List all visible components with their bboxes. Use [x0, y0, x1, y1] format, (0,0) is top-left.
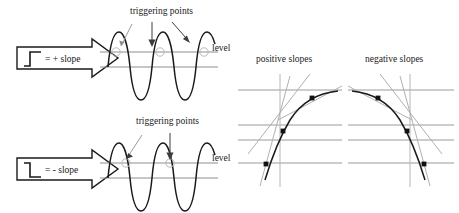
plus-slope-label: = + slope	[45, 54, 81, 64]
callout-leader-3	[172, 22, 186, 38]
marked-point	[405, 129, 410, 134]
curve-path	[352, 91, 425, 180]
tangent-line-1	[260, 76, 290, 186]
minus-slope-label: = - slope	[45, 165, 78, 175]
positive-slopes-svg	[238, 68, 348, 193]
plus-slope-waveform-panel	[96, 4, 236, 104]
figure-canvas: = + slope triggering points level	[0, 0, 459, 213]
callout-leader-1	[129, 135, 142, 155]
tangent-line-3	[400, 76, 430, 186]
negative-slopes-svg	[348, 68, 458, 193]
level-label-top: level	[212, 44, 230, 54]
negative-slopes-panel	[348, 68, 458, 193]
positive-slopes-title: positive slopes	[256, 55, 312, 65]
sine-waveform	[108, 143, 215, 211]
callout-arrowhead-2	[166, 153, 173, 160]
marked-point	[281, 129, 286, 134]
triggering-points-label-bottom: triggering points	[136, 117, 199, 127]
marked-point	[310, 96, 315, 101]
minus-slope-waveform-panel	[96, 115, 236, 213]
marked-point	[422, 162, 427, 167]
marked-point	[376, 96, 381, 101]
callout-arrowhead-3	[183, 36, 190, 43]
level-label-bottom: level	[212, 154, 230, 164]
minus-slope-waveform-svg	[96, 115, 236, 213]
negative-slopes-title: negative slopes	[365, 55, 423, 65]
plus-slope-waveform-svg	[96, 4, 236, 104]
triggering-points-label-top: triggering points	[130, 7, 193, 17]
marked-point	[264, 162, 269, 167]
curve-path	[265, 91, 338, 180]
positive-slopes-panel	[238, 68, 348, 193]
